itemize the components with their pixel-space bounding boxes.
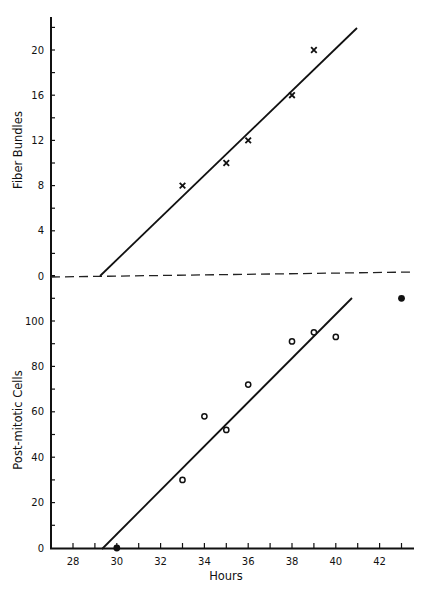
filled-circle-marker	[398, 295, 405, 302]
dashed-baseline	[51, 272, 415, 277]
x-marker	[224, 160, 230, 166]
lower-data-points	[113, 295, 405, 551]
x-marker	[311, 47, 317, 53]
x-tick-label: 38	[286, 556, 299, 567]
x-tick-label: 30	[110, 556, 123, 567]
upper-regression-line	[100, 28, 357, 276]
lower-y-tick-label: 80	[31, 361, 44, 372]
x-marker	[180, 183, 186, 189]
x-tick-label: 28	[67, 556, 80, 567]
upper-y-tick-label: 20	[31, 45, 44, 56]
x-marker	[289, 92, 295, 98]
upper-y-tick-label: 12	[31, 135, 44, 146]
chart-canvas: 048121620 020406080100 2830323436384042 …	[0, 0, 427, 589]
x-marker	[245, 138, 251, 144]
lower-y-tick-label: 60	[31, 406, 44, 417]
filled-circle-marker	[113, 545, 120, 552]
lower-y-axis-title: Post-mitotic Cells	[11, 370, 25, 469]
open-circle-marker	[202, 414, 207, 419]
x-axis-title: Hours	[209, 569, 243, 583]
upper-data-points	[180, 47, 317, 188]
upper-y-tick-label: 0	[38, 271, 44, 282]
lower-y-tick-label: 40	[31, 452, 44, 463]
open-circle-marker	[333, 334, 338, 339]
x-tick-label: 40	[329, 556, 342, 567]
x-tick-label: 42	[373, 556, 386, 567]
upper-y-tick-label: 16	[31, 90, 44, 101]
upper-y-tick-label: 8	[38, 180, 44, 191]
lower-y-tick-label: 0	[38, 543, 44, 554]
upper-y-tick-label: 4	[38, 225, 44, 236]
open-circle-marker	[224, 427, 229, 432]
x-tick-label: 34	[198, 556, 211, 567]
lower-y-tick-label: 100	[25, 316, 44, 327]
lower-y-tick-label: 20	[31, 497, 44, 508]
lower-regression-line	[102, 298, 352, 549]
x-tick-label: 36	[242, 556, 255, 567]
open-circle-marker	[246, 382, 251, 387]
open-circle-marker	[180, 477, 185, 482]
open-circle-marker	[311, 330, 316, 335]
open-circle-marker	[289, 339, 294, 344]
upper-y-axis-title: Fiber Bundles	[11, 111, 25, 189]
x-tick-label: 32	[154, 556, 167, 567]
